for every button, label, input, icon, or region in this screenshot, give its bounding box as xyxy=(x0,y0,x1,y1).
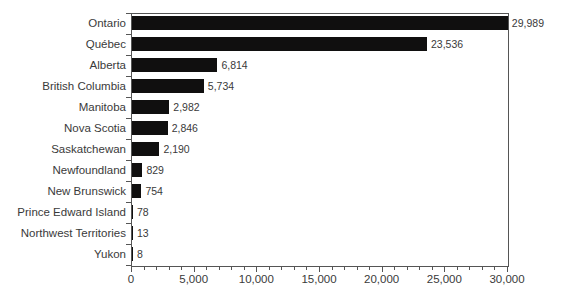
x-axis-minor-tick xyxy=(494,266,495,270)
value-label: 78 xyxy=(137,202,149,223)
category-label: Newfoundland xyxy=(52,160,126,181)
x-axis-minor-tick xyxy=(332,266,333,270)
value-label: 13 xyxy=(137,223,149,244)
y-axis-tick xyxy=(126,181,132,182)
bar xyxy=(132,205,133,219)
bar xyxy=(132,184,141,198)
x-axis-major-tick xyxy=(507,266,508,272)
y-axis-tick xyxy=(126,55,132,56)
x-axis-minor-tick xyxy=(357,266,358,270)
category-label: Northwest Territories xyxy=(21,223,126,244)
category-label: Manitoba xyxy=(79,97,126,118)
bar-row: Nova Scotia2,846 xyxy=(0,118,571,139)
x-axis-minor-tick xyxy=(344,266,345,270)
bar xyxy=(132,142,159,156)
value-label: 23,536 xyxy=(431,34,463,55)
bar-row: Newfoundland829 xyxy=(0,160,571,181)
x-axis-tick-label: 5,000 xyxy=(179,273,208,285)
bar xyxy=(132,226,133,240)
x-axis-minor-tick xyxy=(181,266,182,270)
x-axis-tick-label: 15,000 xyxy=(301,273,336,285)
bar-row: Prince Edward Island78 xyxy=(0,202,571,223)
value-label: 2,190 xyxy=(163,139,189,160)
x-axis-tick-label: 20,000 xyxy=(364,273,399,285)
y-axis-tick xyxy=(126,97,132,98)
x-axis-minor-tick xyxy=(269,266,270,270)
x-axis-minor-tick xyxy=(394,266,395,270)
value-label: 829 xyxy=(146,160,164,181)
y-axis-tick xyxy=(126,160,132,161)
x-axis-minor-tick xyxy=(281,266,282,270)
x-axis-minor-tick xyxy=(206,266,207,270)
bar-row: Yukon8 xyxy=(0,244,571,265)
y-axis-tick xyxy=(126,13,132,14)
category-label: British Columbia xyxy=(42,76,126,97)
category-label: Alberta xyxy=(90,55,126,76)
category-label: Ontario xyxy=(88,13,126,34)
x-axis-minor-tick xyxy=(231,266,232,270)
x-axis-minor-tick xyxy=(369,266,370,270)
value-label: 5,734 xyxy=(208,76,234,97)
x-axis-minor-tick xyxy=(156,266,157,270)
bar xyxy=(132,121,168,135)
y-axis-tick xyxy=(126,76,132,77)
x-axis-minor-tick xyxy=(169,266,170,270)
bar-row: Québec23,536 xyxy=(0,34,571,55)
x-axis-minor-tick xyxy=(306,266,307,270)
x-axis-minor-tick xyxy=(419,266,420,270)
category-label: Prince Edward Island xyxy=(17,202,126,223)
category-label: Yukon xyxy=(94,244,126,265)
x-axis-minor-tick xyxy=(407,266,408,270)
y-axis-tick xyxy=(126,223,132,224)
bar-chart: Ontario29,989Québec23,536Alberta6,814Bri… xyxy=(0,0,571,303)
category-label: Saskatchewan xyxy=(51,139,126,160)
x-axis-tick-label: 10,000 xyxy=(239,273,274,285)
y-axis-tick xyxy=(126,118,132,119)
x-axis-tick-label: 25,000 xyxy=(427,273,462,285)
bar-row: Ontario29,989 xyxy=(0,13,571,34)
value-label: 2,846 xyxy=(172,118,198,139)
bar-row: New Brunswick754 xyxy=(0,181,571,202)
bar xyxy=(132,37,427,51)
bar xyxy=(132,79,204,93)
x-axis-major-tick xyxy=(256,266,257,272)
category-label: Québec xyxy=(86,34,126,55)
y-axis-tick xyxy=(126,202,132,203)
bar xyxy=(132,100,169,114)
x-axis: 05,00010,00015,00020,00025,00030,000 xyxy=(0,265,571,303)
value-label: 29,989 xyxy=(512,13,544,34)
x-axis-major-tick xyxy=(131,266,132,272)
bar-row: Manitoba2,982 xyxy=(0,97,571,118)
bar-row: Alberta6,814 xyxy=(0,55,571,76)
x-axis-major-tick xyxy=(444,266,445,272)
value-label: 8 xyxy=(137,244,143,265)
x-axis-tick-label: 0 xyxy=(128,273,134,285)
value-label: 754 xyxy=(145,181,163,202)
bar xyxy=(132,163,142,177)
category-label: Nova Scotia xyxy=(64,118,126,139)
bar xyxy=(132,58,217,72)
value-label: 6,814 xyxy=(221,55,247,76)
y-axis-tick xyxy=(126,244,132,245)
x-axis-minor-tick xyxy=(432,266,433,270)
x-axis-minor-tick xyxy=(457,266,458,270)
y-axis-tick xyxy=(126,139,132,140)
value-label: 2,982 xyxy=(173,97,199,118)
x-axis-major-tick xyxy=(382,266,383,272)
category-label: New Brunswick xyxy=(47,181,126,202)
x-axis-tick-label: 30,000 xyxy=(489,273,524,285)
x-axis-minor-tick xyxy=(469,266,470,270)
y-axis-tick xyxy=(126,34,132,35)
bar-row: Northwest Territories13 xyxy=(0,223,571,244)
bar xyxy=(132,247,133,261)
x-axis-minor-tick xyxy=(482,266,483,270)
x-axis-minor-tick xyxy=(219,266,220,270)
bar-row: Saskatchewan2,190 xyxy=(0,139,571,160)
bar xyxy=(132,16,508,30)
bar-rows-container: Ontario29,989Québec23,536Alberta6,814Bri… xyxy=(0,13,571,265)
x-axis-major-tick xyxy=(319,266,320,272)
x-axis-minor-tick xyxy=(144,266,145,270)
x-axis-minor-tick xyxy=(294,266,295,270)
bar-row: British Columbia5,734 xyxy=(0,76,571,97)
x-axis-major-tick xyxy=(194,266,195,272)
